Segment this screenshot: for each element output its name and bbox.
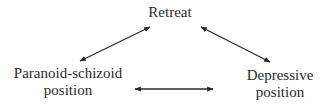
node-depressive-label-line1: Depressive [237, 67, 323, 84]
node-retreat-label: Retreat [130, 4, 210, 21]
arrow-retreat-paranoid-schizoid [80, 27, 150, 61]
arrow-retreat-depressive [201, 27, 270, 62]
node-retreat: Retreat [130, 4, 210, 21]
node-paranoid-schizoid-label-line1: Paranoid-schizoid [2, 65, 134, 82]
node-paranoid-schizoid-label-line2: position [2, 82, 134, 99]
node-paranoid-schizoid-position: Paranoid-schizoid position [2, 65, 134, 99]
node-depressive-position: Depressive position [237, 67, 323, 101]
node-depressive-label-line2: position [237, 84, 323, 101]
